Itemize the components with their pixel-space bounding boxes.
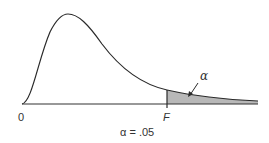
caption: α = .05 [120,126,154,138]
alpha-label: α [200,69,208,83]
density-curve [22,14,258,104]
critical-label: F [163,111,171,123]
f-distribution-chart: 0 F α α = .05 [0,0,269,143]
origin-label: 0 [18,111,24,123]
